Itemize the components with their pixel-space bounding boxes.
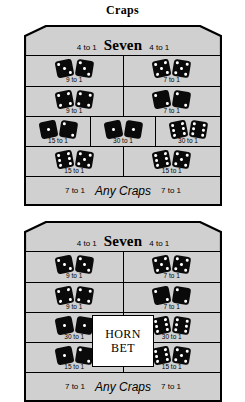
die-pip-empty <box>135 133 139 137</box>
die-pip-empty <box>175 123 179 127</box>
craps-row-3: 15 to 130 to 130 to 1 <box>26 116 220 146</box>
die-pip <box>176 152 180 156</box>
bet-cell-hard-six[interactable]: 9 to 1 <box>26 252 123 282</box>
die-pip-empty <box>58 294 62 298</box>
die-pip-empty <box>160 157 164 161</box>
bet-cell-twelve-boxcars[interactable]: 30 to 1 <box>155 117 220 146</box>
bet-cell-hard-ten[interactable]: 7 to 1 <box>123 252 221 282</box>
die-pip-empty <box>77 267 81 271</box>
die-pip-empty <box>195 132 199 136</box>
dice-pair <box>153 347 190 364</box>
die-pip-empty <box>177 132 181 136</box>
die-pip <box>191 131 195 135</box>
die-pip-empty <box>110 123 114 127</box>
die-pip-empty <box>127 122 131 126</box>
die-pip-empty <box>106 123 110 127</box>
die-pip <box>164 322 168 326</box>
die-pip-empty <box>61 62 65 66</box>
die-pip-empty <box>82 358 86 362</box>
die-pip <box>156 329 160 333</box>
seven-bet-header[interactable]: 4 to 1Seven4 to 1 <box>24 221 222 252</box>
die-pip <box>57 153 61 157</box>
bet-cell-hard-six[interactable]: 9 to 1 <box>26 56 123 86</box>
die-pip-empty <box>155 264 159 268</box>
die-pip <box>154 349 158 353</box>
bet-cell-hard-four[interactable]: 7 to 1 <box>123 87 221 116</box>
die-pip-empty <box>82 298 86 302</box>
die-pip-empty <box>45 123 49 127</box>
seven-bet-header[interactable]: 4 to 1Seven4 to 1 <box>24 25 222 56</box>
die-pip-empty <box>175 352 179 356</box>
bet-cell-three-ace-deuce[interactable]: 15 to 1 <box>26 117 90 146</box>
die-pip-empty <box>61 153 65 157</box>
die-face-5 <box>75 149 94 168</box>
die-pip <box>165 357 169 361</box>
die-pip-empty <box>185 263 189 267</box>
die-pip-empty <box>136 128 140 132</box>
die-pip-empty <box>66 61 70 65</box>
any-craps-bet[interactable]: 7 to 1Any Craps7 to 1 <box>26 372 220 400</box>
die-pip-empty <box>67 123 71 127</box>
bet-cell-hard-ten[interactable]: 7 to 1 <box>123 56 221 86</box>
dice-pair <box>56 91 93 108</box>
any-craps-label: Any Craps <box>95 380 151 394</box>
die-pip-empty <box>67 66 71 70</box>
die-pip <box>180 263 184 267</box>
die-pip <box>68 161 72 165</box>
die-pip-empty <box>159 62 163 66</box>
die-pip-empty <box>159 258 163 262</box>
die-pip <box>164 61 168 65</box>
die-pip-empty <box>180 323 184 327</box>
bet-cell-eleven-yo-left[interactable]: 15 to 1 <box>26 147 123 176</box>
bet-cell-two-snake-eyes[interactable]: 30 to 1 <box>90 117 155 146</box>
die-face-5 <box>152 59 172 79</box>
die-pip-empty <box>52 131 56 135</box>
die-pip-empty <box>88 259 92 263</box>
die-pip <box>79 92 83 96</box>
die-pip-empty <box>63 358 67 362</box>
die-pip <box>160 263 164 267</box>
bet-cell-hard-four[interactable]: 7 to 1 <box>123 283 221 312</box>
die-pip-empty <box>78 96 82 100</box>
die-pip <box>185 319 189 323</box>
die-pip-empty <box>59 329 63 333</box>
die-pip-empty <box>41 123 45 127</box>
any-craps-bet[interactable]: 7 to 1Any Craps7 to 1 <box>26 176 220 204</box>
die-pip-empty <box>67 262 71 266</box>
die-pip-empty <box>155 294 159 298</box>
die-pip-empty <box>61 131 65 135</box>
bet-cell-eleven-yo-right[interactable]: 15 to 1 <box>123 147 221 176</box>
die-pip <box>62 67 66 71</box>
horn-bet-label-line1: HORN <box>105 327 141 341</box>
payout-odds-label: 9 to 1 <box>66 303 82 310</box>
horn-bet-box[interactable]: HORNBET <box>92 315 154 367</box>
die-pip-empty <box>181 62 185 66</box>
bet-cell-hard-eight[interactable]: 9 to 1 <box>26 87 123 116</box>
die-pip-empty <box>87 98 91 102</box>
seven-odds-left: 4 to 1 <box>77 43 97 52</box>
dice-pair <box>153 91 190 108</box>
die-pip-empty <box>62 97 66 101</box>
die-pip-empty <box>159 289 163 293</box>
die-pip-empty <box>87 67 91 71</box>
die-face-2 <box>172 89 191 108</box>
die-face-4 <box>75 89 94 108</box>
die-pip-empty <box>83 289 87 293</box>
die-pip-empty <box>181 289 185 293</box>
die-pip <box>165 101 169 105</box>
die-pip <box>57 289 61 293</box>
die-face-6 <box>188 119 207 138</box>
die-pip-empty <box>179 267 183 271</box>
die-pip-empty <box>161 162 165 166</box>
die-pip-empty <box>78 292 82 296</box>
die-pip <box>192 126 196 130</box>
bet-cell-hard-eight[interactable]: 9 to 1 <box>26 283 123 312</box>
any-craps-label: Any Craps <box>95 184 151 198</box>
die-pip-empty <box>71 128 75 132</box>
die-pip <box>68 101 72 105</box>
dice-pair <box>56 60 93 77</box>
die-pip-empty <box>82 71 86 75</box>
die-pip <box>79 257 83 261</box>
die-pip <box>184 268 188 272</box>
die-pip-empty <box>78 322 82 326</box>
